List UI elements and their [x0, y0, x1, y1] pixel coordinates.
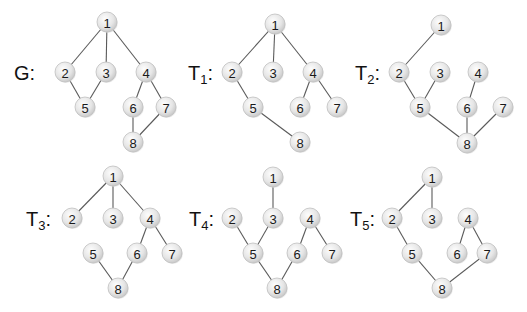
- node-label: 3: [102, 66, 109, 81]
- node-4: 4: [468, 62, 489, 83]
- node-7: 7: [493, 97, 514, 118]
- node-8: 8: [108, 278, 129, 299]
- node-label: 1: [103, 16, 110, 31]
- node-6: 6: [123, 97, 144, 118]
- node-label: 5: [249, 247, 256, 262]
- node-4: 4: [140, 208, 161, 229]
- node-label: 5: [416, 101, 423, 116]
- node-6: 6: [457, 97, 478, 118]
- node-label: 6: [129, 101, 136, 116]
- node-label: 8: [463, 137, 470, 152]
- node-label: 4: [306, 212, 313, 227]
- node-2: 2: [62, 208, 83, 229]
- node-label: 7: [328, 247, 335, 262]
- node-label: 8: [296, 136, 303, 151]
- node-5: 5: [83, 243, 104, 264]
- node-8: 8: [432, 278, 453, 299]
- node-6: 6: [447, 243, 468, 264]
- node-label: 7: [168, 247, 175, 262]
- node-label: 2: [68, 212, 75, 227]
- node-label: 7: [162, 101, 169, 116]
- node-label: 6: [133, 247, 140, 262]
- node-7: 7: [327, 97, 348, 118]
- node-label: 6: [463, 101, 470, 116]
- node-label: 6: [296, 101, 303, 116]
- node-5: 5: [243, 97, 264, 118]
- node-3: 3: [96, 62, 117, 83]
- node-label: 5: [89, 247, 96, 262]
- graph-label-t4: T4:: [189, 208, 214, 233]
- graph-label-g: G:: [14, 62, 35, 84]
- node-label: 2: [388, 212, 395, 227]
- node-label: 7: [333, 101, 340, 116]
- node-label: 3: [428, 212, 435, 227]
- node-1: 1: [422, 167, 443, 188]
- node-label: 5: [81, 101, 88, 116]
- node-label: 4: [146, 212, 153, 227]
- node-label: 7: [483, 247, 490, 262]
- graph-label-t3: T3:: [26, 208, 51, 233]
- node-7: 7: [322, 243, 343, 264]
- graph-t5: T5:12345678: [350, 167, 498, 299]
- node-8: 8: [267, 278, 288, 299]
- node-2: 2: [55, 62, 76, 83]
- node-label: 1: [437, 19, 444, 34]
- node-label: 3: [109, 212, 116, 227]
- node-label: 4: [464, 212, 471, 227]
- node-label: 2: [61, 66, 68, 81]
- graph-figure: G:12345678T1:12345678T2:12345678T3:12345…: [0, 0, 527, 312]
- graph-label-t2: T2:: [355, 62, 380, 87]
- node-label: 6: [453, 247, 460, 262]
- node-2: 2: [382, 208, 403, 229]
- node-3: 3: [103, 208, 124, 229]
- node-label: 8: [129, 136, 136, 151]
- node-2: 2: [222, 208, 243, 229]
- node-5: 5: [75, 97, 96, 118]
- node-label: 3: [436, 66, 443, 81]
- node-4: 4: [458, 208, 479, 229]
- node-label: 7: [499, 101, 506, 116]
- node-6: 6: [287, 243, 308, 264]
- node-label: 2: [228, 66, 235, 81]
- node-label: 6: [293, 247, 300, 262]
- graphs-root: G:12345678T1:12345678T2:12345678T3:12345…: [14, 12, 514, 299]
- graph-t2: T2:12345678: [355, 15, 514, 154]
- node-label: 8: [273, 282, 280, 297]
- node-6: 6: [290, 97, 311, 118]
- node-label: 3: [269, 212, 276, 227]
- node-1: 1: [103, 166, 124, 187]
- node-8: 8: [123, 132, 144, 153]
- node-4: 4: [300, 208, 321, 229]
- node-1: 1: [263, 167, 284, 188]
- node-label: 8: [438, 282, 445, 297]
- node-4: 4: [136, 62, 157, 83]
- node-label: 8: [114, 282, 121, 297]
- node-7: 7: [162, 243, 183, 264]
- node-8: 8: [290, 132, 311, 153]
- graph-label-t1: T1:: [188, 62, 213, 87]
- node-label: 2: [395, 66, 402, 81]
- node-label: 1: [428, 171, 435, 186]
- node-label: 3: [269, 66, 276, 81]
- node-label: 1: [271, 18, 278, 33]
- node-2: 2: [389, 62, 410, 83]
- graph-t3: T3:12345678: [26, 166, 183, 299]
- node-5: 5: [402, 243, 423, 264]
- node-label: 5: [249, 101, 256, 116]
- node-7: 7: [477, 243, 498, 264]
- graph-label-t5: T5:: [350, 208, 375, 233]
- node-label: 4: [309, 66, 316, 81]
- node-4: 4: [303, 62, 324, 83]
- node-5: 5: [410, 97, 431, 118]
- node-8: 8: [457, 133, 478, 154]
- node-label: 4: [474, 66, 481, 81]
- node-2: 2: [222, 62, 243, 83]
- node-label: 1: [269, 171, 276, 186]
- node-3: 3: [263, 208, 284, 229]
- graph-g: G:12345678: [14, 12, 177, 153]
- graph-t4: T4:12345678: [189, 167, 343, 299]
- node-label: 2: [228, 212, 235, 227]
- node-label: 5: [408, 247, 415, 262]
- node-3: 3: [430, 62, 451, 83]
- node-3: 3: [422, 208, 443, 229]
